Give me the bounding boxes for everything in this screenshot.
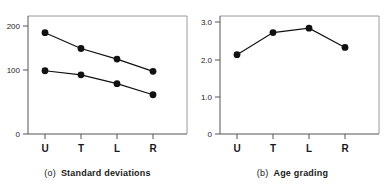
y-axis-ticks-a bbox=[23, 26, 28, 134]
series-line bbox=[237, 28, 345, 55]
axis-lines-b bbox=[220, 16, 379, 134]
plot-frame-a bbox=[28, 16, 187, 134]
y-tick-label: 200 bbox=[7, 22, 21, 31]
y-tick-label: 100 bbox=[7, 66, 21, 75]
panel-caption-a: (o)Standard deviations bbox=[0, 168, 195, 178]
plot-frame-b bbox=[220, 16, 379, 134]
data-point bbox=[270, 29, 277, 36]
data-point bbox=[150, 91, 157, 98]
x-tick-label: T bbox=[78, 143, 84, 154]
standard-deviations-plot: 0 100 200 U T L R bbox=[0, 0, 195, 184]
data-point bbox=[42, 29, 49, 36]
data-point bbox=[114, 80, 121, 87]
axis-lines-a bbox=[28, 16, 187, 134]
x-tick-label: L bbox=[306, 143, 312, 154]
data-point bbox=[342, 44, 349, 51]
panel-caption-b: (b)Age grading bbox=[195, 168, 390, 178]
data-point bbox=[78, 45, 85, 52]
y-tick-label: 3.0 bbox=[201, 18, 213, 27]
x-tick-label: T bbox=[270, 143, 276, 154]
figure-container: 0 100 200 U T L R (o)Standard deviations bbox=[0, 0, 391, 184]
age-grading-plot: 0 1.0 2.0 3.0 U T L R bbox=[195, 0, 391, 184]
x-axis-ticks-b bbox=[237, 134, 345, 139]
x-tick-label: U bbox=[233, 143, 240, 154]
x-tick-label: R bbox=[149, 143, 157, 154]
data-series-group-a bbox=[42, 29, 157, 98]
y-axis-ticks-b bbox=[215, 22, 220, 134]
y-tick-label: 0 bbox=[208, 130, 213, 139]
panel-caption-tag: (o) bbox=[44, 168, 56, 178]
series-line bbox=[45, 33, 153, 72]
data-point bbox=[114, 56, 121, 63]
data-point bbox=[306, 25, 313, 32]
chart-panel-a: 0 100 200 U T L R (o)Standard deviations bbox=[0, 0, 195, 184]
data-point bbox=[42, 67, 49, 74]
series-line bbox=[45, 71, 153, 95]
y-tick-label: 0 bbox=[16, 130, 21, 139]
y-tick-label: 1.0 bbox=[201, 93, 213, 102]
panel-caption-text: Standard deviations bbox=[61, 168, 151, 178]
chart-panel-b: 0 1.0 2.0 3.0 U T L R (b)Age grading bbox=[195, 0, 390, 184]
panel-caption-tag: (b) bbox=[257, 168, 269, 178]
x-tick-label: L bbox=[114, 143, 120, 154]
x-tick-label: U bbox=[41, 143, 48, 154]
panel-caption-text: Age grading bbox=[273, 168, 328, 178]
data-point bbox=[234, 51, 241, 58]
data-point bbox=[78, 71, 85, 78]
data-point bbox=[150, 68, 157, 75]
data-series-group-b bbox=[234, 25, 349, 58]
y-tick-label: 2.0 bbox=[201, 56, 213, 65]
x-axis-ticks-a bbox=[45, 134, 153, 139]
x-tick-label: R bbox=[341, 143, 349, 154]
